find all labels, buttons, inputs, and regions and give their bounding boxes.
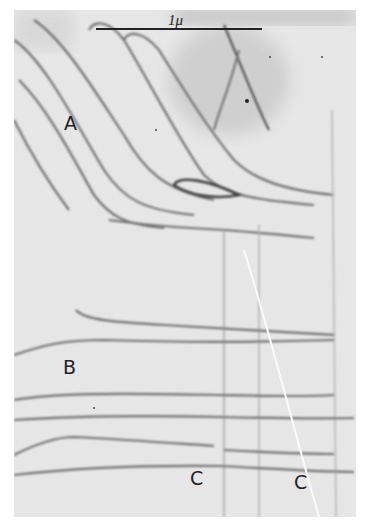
label-c-right: C	[294, 473, 307, 492]
scale-bar-label: 1μ	[168, 12, 183, 29]
label-c-left: C	[190, 469, 203, 488]
label-a: A	[64, 114, 77, 133]
micrograph: 1μ A B C C	[14, 10, 356, 517]
label-b: B	[63, 358, 76, 377]
micrograph-lines	[14, 10, 356, 517]
